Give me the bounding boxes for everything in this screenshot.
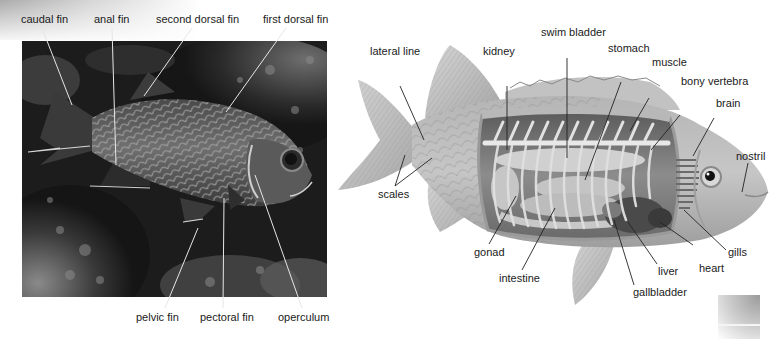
- label-stomach: stomach: [608, 42, 650, 55]
- label-nostril: nostril: [736, 150, 765, 163]
- label-pelvic-fin: pelvic fin: [136, 311, 179, 324]
- label-gallbladder: gallbladder: [633, 286, 687, 299]
- label-bony-vertebra: bony vertebra: [681, 75, 748, 88]
- label-gonad: gonad: [474, 246, 505, 259]
- label-kidney: kidney: [483, 45, 515, 58]
- label-gills: gills: [728, 246, 747, 259]
- label-swim-bladder: swim bladder: [541, 26, 606, 39]
- label-pectoral-fin: pectoral fin: [200, 311, 254, 324]
- label-intestine: intestine: [499, 272, 540, 285]
- fish-anatomy-figure: caudal fin anal fin second dorsal fin fi…: [0, 0, 774, 353]
- label-operculum: operculum: [278, 311, 329, 324]
- label-lateral-line: lateral line: [370, 45, 420, 58]
- label-caudal-fin: caudal fin: [21, 13, 68, 26]
- label-anal-fin: anal fin: [94, 13, 129, 26]
- label-second-dorsal-fin: second dorsal fin: [156, 13, 239, 26]
- label-liver: liver: [658, 265, 678, 278]
- label-heart: heart: [699, 262, 724, 275]
- label-brain: brain: [716, 97, 740, 110]
- label-scales: scales: [378, 188, 409, 201]
- label-muscle: muscle: [652, 56, 687, 69]
- label-first-dorsal-fin: first dorsal fin: [263, 13, 328, 26]
